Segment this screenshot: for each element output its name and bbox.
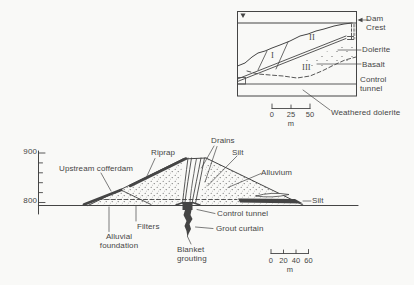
inset-label-dam-crest: Dam Crest: [366, 14, 386, 32]
main-scale-bar: [271, 250, 309, 254]
main-section: [39, 146, 359, 254]
label-control-tunnel: Control tunnel: [217, 209, 268, 218]
inset-scale-0: 0: [264, 110, 280, 119]
water-level-icon: [241, 14, 246, 19]
label-silt-core: Silt: [232, 148, 244, 157]
inset-scale-50: 50: [302, 110, 318, 119]
inset-label-weathered-dolerite: Weathered dolerite: [331, 108, 400, 117]
label-upstream-cofferdam: Upstream cofferdam: [59, 164, 133, 173]
dam-cross-section-figure: Dam Crest Dolerite Basalt Control tunnel…: [0, 0, 414, 285]
inset-scale-unit: m: [283, 119, 299, 128]
inset-scale-25: 25: [283, 110, 299, 119]
label-grout-curtain: Grout curtain: [216, 224, 264, 233]
main-scale-unit: m: [282, 265, 298, 274]
label-silt-toe: Silt: [312, 196, 324, 205]
grout-curtain-shape: [184, 210, 193, 238]
label-riprap: Riprap: [151, 148, 175, 157]
inset-label-dolerite: Dolerite: [362, 45, 390, 54]
diagram-linework: [0, 0, 414, 285]
inset-label-basalt: Basalt: [362, 60, 385, 69]
elevation-axis: [39, 151, 46, 214]
elevation-900: 900: [17, 147, 37, 156]
label-drains: Drains: [211, 136, 235, 145]
inset-zone-2: II: [309, 33, 315, 42]
inset-zone-3: III: [302, 63, 311, 72]
inset-section: [238, 12, 370, 111]
inset-label-control-tunnel: Control tunnel: [360, 75, 387, 93]
elevation-800: 800: [17, 196, 37, 205]
control-tunnel-block: [183, 202, 193, 210]
label-alluvium: Alluvium: [261, 168, 292, 177]
inset-zone-1: I: [271, 51, 274, 60]
inset-scale-bar: [272, 104, 310, 109]
label-filters: Filters: [137, 222, 159, 231]
label-blanket-grouting: Blanket grouting: [177, 245, 207, 263]
dam-crest-arrow-icon: [358, 18, 363, 22]
main-scale-60: 60: [301, 256, 317, 265]
label-alluvial-foundation: Alluvial foundation: [93, 232, 145, 250]
